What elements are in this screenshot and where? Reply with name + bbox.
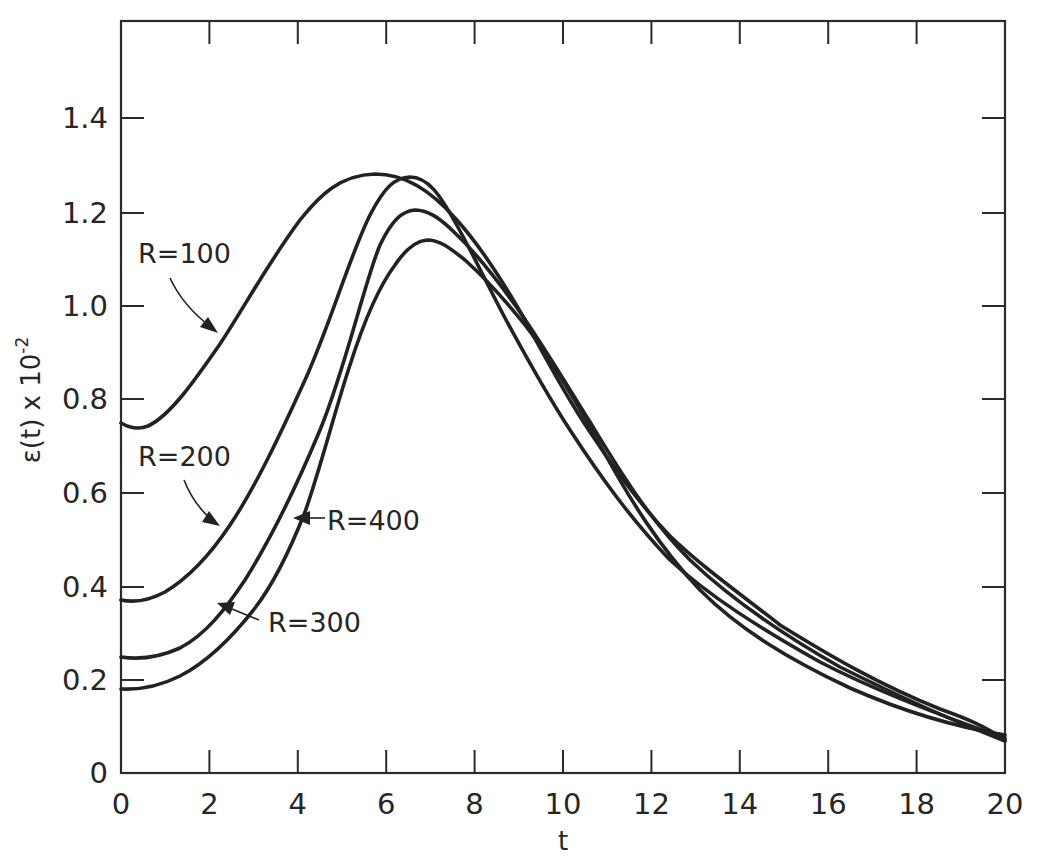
- annotation-r200: R=200: [138, 441, 231, 526]
- svg-text:ε(t) x 10-2: ε(t) x 10-2: [12, 337, 46, 464]
- x-tick-label: 4: [289, 787, 307, 821]
- series-curves: [121, 174, 1005, 741]
- y-tick-label: 0.6: [62, 476, 108, 510]
- x-axis-ticks-top: [209, 21, 916, 44]
- annotation-r400: R=400: [293, 505, 420, 536]
- y-tick-label: 1.4: [62, 101, 108, 135]
- x-tick-label: 14: [721, 787, 758, 821]
- x-tick-label: 18: [898, 787, 935, 821]
- annotation-r300: R=300: [217, 602, 361, 638]
- x-tick-label: 20: [987, 787, 1024, 821]
- y-axis-title-exponent: -2: [12, 337, 32, 354]
- curve-r100: [121, 174, 1005, 740]
- y-tick-label: 0.8: [62, 382, 108, 416]
- y-tick-label: 0: [90, 756, 108, 790]
- curve-r200: [121, 177, 1005, 738]
- annotation-r100: R=100: [138, 238, 231, 333]
- x-tick-label: 2: [200, 787, 218, 821]
- y-axis-ticks-left: [121, 118, 144, 680]
- y-tick-label: 1.2: [62, 196, 108, 230]
- x-tick-label: 6: [377, 787, 395, 821]
- y-axis-ticks-right: [982, 118, 1005, 680]
- y-tick-labels: 0 0.2 0.4 0.6 0.8 1.0 1.2 1.4: [62, 101, 108, 790]
- annotation-label: R=200: [138, 441, 231, 472]
- annotation-label: R=400: [327, 505, 420, 536]
- y-tick-label: 1.0: [62, 289, 108, 323]
- plot-frame: [121, 21, 1005, 773]
- y-tick-label: 0.2: [62, 663, 108, 697]
- y-tick-label: 0.4: [62, 570, 108, 604]
- x-tick-labels: 0 2 4 6 8 10 12 14 16 18 20: [112, 787, 1024, 821]
- line-chart: 0 2 4 6 8 10 12 14 16 18 20 0 0.2 0.4 0.…: [0, 0, 1050, 857]
- annotation-label: R=100: [138, 238, 231, 269]
- x-tick-label: 0: [112, 787, 130, 821]
- x-tick-label: 16: [810, 787, 847, 821]
- y-axis-title: ε(t) x 10-2: [12, 337, 46, 464]
- annotation-label: R=300: [268, 607, 361, 638]
- x-axis-title: t: [558, 826, 568, 856]
- x-axis-ticks-bottom: [209, 750, 916, 773]
- x-tick-label: 8: [465, 787, 483, 821]
- x-tick-label: 10: [545, 787, 582, 821]
- x-tick-label: 12: [633, 787, 670, 821]
- y-axis-title-text: ε(t) x 10: [16, 354, 46, 464]
